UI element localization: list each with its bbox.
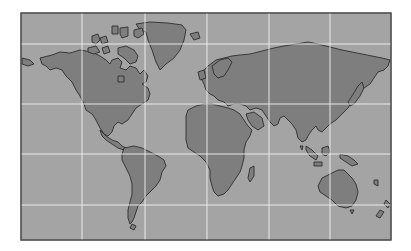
world-map xyxy=(0,0,411,251)
landmass-british-isles xyxy=(198,70,206,80)
landmass-java xyxy=(314,162,322,166)
landmass-arctic-island-4 xyxy=(120,27,128,38)
landmass-arctic-island-7 xyxy=(102,46,110,54)
landmass-hudson-bay-island xyxy=(118,76,124,82)
landmass-arctic-island-3 xyxy=(112,26,118,34)
landmass-arctic-island-2 xyxy=(100,36,108,44)
